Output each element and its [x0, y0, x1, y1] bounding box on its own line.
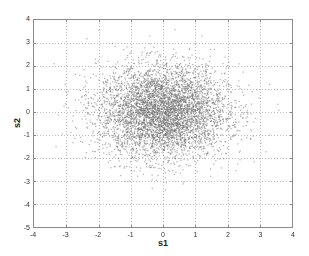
y-tick-label: -4: [8, 201, 30, 209]
y-tick-label: 4: [8, 15, 30, 23]
x-tick-label: 2: [218, 231, 238, 239]
x-tick-label: 4: [283, 231, 303, 239]
y-tick-label: -3: [8, 178, 30, 186]
plot-area: [33, 19, 293, 228]
scatter-figure: s1 s2 43210-1-2-3-4-5-4-3-2-101234: [0, 0, 309, 256]
x-tick-label: -3: [56, 231, 76, 239]
scatter-points: [34, 20, 292, 227]
y-tick-label: -1: [8, 131, 30, 139]
x-tick-label: -1: [121, 231, 141, 239]
x-tick-label: 0: [153, 231, 173, 239]
x-tick-label: 1: [186, 231, 206, 239]
x-axis-label: s1: [143, 238, 183, 248]
y-tick-label: 1: [8, 85, 30, 93]
y-tick-label: 2: [8, 61, 30, 69]
y-tick-label: -2: [8, 154, 30, 162]
x-tick-label: -2: [88, 231, 108, 239]
x-tick-label: 3: [251, 231, 271, 239]
x-tick-label: -4: [23, 231, 43, 239]
y-tick-label: 3: [8, 38, 30, 46]
y-tick-label: 0: [8, 108, 30, 116]
